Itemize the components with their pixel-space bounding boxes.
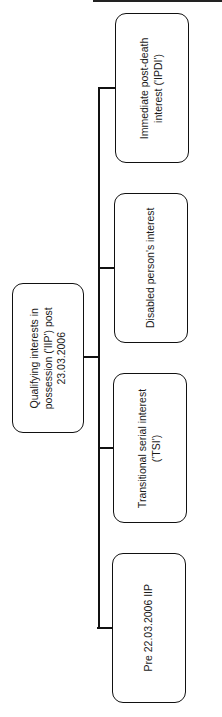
node-root-qualifying-iip: Qualifying interests in possession ('IIP… (12, 283, 84, 433)
node-ipdi-label: Immediate post-death interest ('IPDI') (139, 37, 166, 139)
connector-child-pre-iip (97, 627, 113, 629)
node-tsi: Transitional serial interest ('TSI') (113, 373, 187, 523)
connector-root (83, 356, 99, 358)
node-disabled-persons-interest: Disabled person's interest (114, 193, 188, 343)
node-pre-2006-iip: Pre 22.03.2006 IIP (112, 553, 186, 703)
connector-child-disabled (98, 267, 115, 269)
connector-spine (98, 87, 100, 629)
connector-child-tsi (98, 447, 114, 449)
node-disabled-label: Disabled person's interest (144, 208, 158, 328)
connector-child-ipdi (98, 87, 115, 89)
node-ipdi: Immediate post-death interest ('IPDI') (115, 13, 189, 163)
node-pre-iip-label: Pre 22.03.2006 IIP (142, 584, 156, 672)
node-tsi-label: Transitional serial interest ('TSI') (137, 388, 164, 507)
node-root-label: Qualifying interests in possession ('IIP… (28, 307, 69, 409)
heading-underline-rule (93, 0, 222, 2)
